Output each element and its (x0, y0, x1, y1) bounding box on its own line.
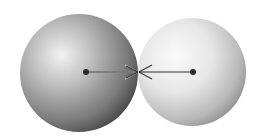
right-center-dot (190, 69, 196, 75)
force-diagram (0, 0, 265, 136)
left-center-dot (83, 69, 89, 75)
left-sphere (20, 14, 138, 132)
